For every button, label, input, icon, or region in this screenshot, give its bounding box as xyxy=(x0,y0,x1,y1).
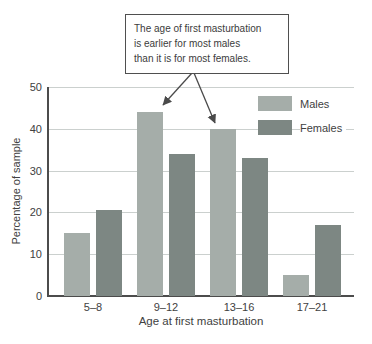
females-swatch xyxy=(258,120,292,135)
annotation-line-3: than it is for most females. xyxy=(134,51,280,66)
gridline-20 xyxy=(47,212,354,213)
males-swatch xyxy=(258,96,292,111)
gridline-50 xyxy=(47,87,354,88)
figure-root: 010203040505–89–1213–1617–21 Percentage … xyxy=(0,0,372,344)
bar-males-9–12 xyxy=(137,112,163,296)
females-legend-label: Females xyxy=(300,121,346,135)
y-axis-line xyxy=(47,87,49,296)
legend: Males Females xyxy=(258,96,346,144)
annotation-callout: The age of first masturbation is earlier… xyxy=(125,14,289,74)
bar-males-13–16 xyxy=(210,129,236,296)
legend-row-males: Males xyxy=(258,96,346,111)
annotation-line-1: The age of first masturbation xyxy=(134,21,280,36)
y-axis-title: Percentage of sample xyxy=(10,101,22,281)
legend-row-females: Females xyxy=(258,120,346,135)
bar-males-17–21 xyxy=(283,275,309,296)
bar-females-9–12 xyxy=(169,154,195,296)
x-tick-label-17–21: 17–21 xyxy=(287,301,337,313)
x-axis-title: Age at first masturbation xyxy=(47,315,355,327)
bar-females-17–21 xyxy=(315,225,341,296)
males-legend-label: Males xyxy=(300,97,333,111)
x-tick-label-9–12: 9–12 xyxy=(141,301,191,313)
bar-males-5–8 xyxy=(64,233,90,296)
x-tick-label-13–16: 13–16 xyxy=(214,301,264,313)
gridline-30 xyxy=(47,171,354,172)
bar-females-5–8 xyxy=(96,210,122,296)
y-tick-label-0: 0 xyxy=(16,291,42,302)
gridline-10 xyxy=(47,254,354,255)
x-tick-label-5–8: 5–8 xyxy=(68,301,118,313)
annotation-line-2: is earlier for most males xyxy=(134,36,280,51)
bar-females-13–16 xyxy=(242,158,268,296)
y-tick-label-50: 50 xyxy=(16,82,42,93)
